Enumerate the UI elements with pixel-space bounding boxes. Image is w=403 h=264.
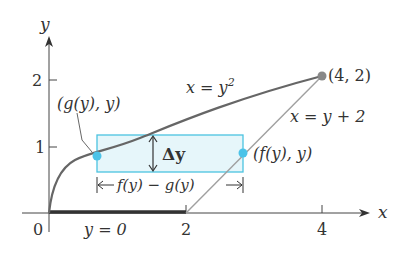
baseline-label: y = 0 [83,220,127,239]
y-axis-label: y [39,14,50,34]
line-label: x = y + 2 [290,107,365,126]
intersection-dot [318,72,327,81]
right-point-label: (f(y), y) [253,144,312,163]
y-tick-label-2: 2 [32,71,42,90]
intersection-label: (4, 2) [328,66,371,85]
x-tick-label-2: 2 [181,220,191,239]
left-point-label: (g(y), y) [57,94,120,113]
x-axis-label: x [378,202,388,222]
left-point-dot [93,152,102,161]
origin-label: 0 [33,220,43,239]
right-point-dot [239,149,248,158]
x-tick-label-4: 4 [317,220,327,239]
region-diagram: y x 0 2 1 2 4 x = y2 x = y + 2 y = 0 (4,… [0,0,403,264]
width-label: f(y) − g(y) [116,176,195,194]
left-point-leader [77,113,92,152]
parabola-label: x = y2 [186,76,235,97]
y-tick-label-1: 1 [35,138,45,157]
delta-y-label: Δy [162,144,186,164]
